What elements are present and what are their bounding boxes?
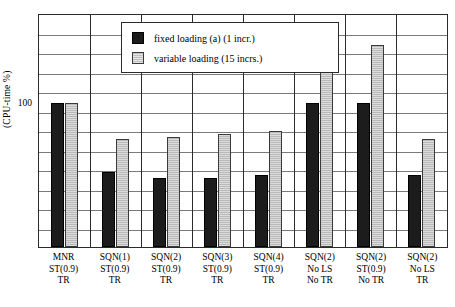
- x-axis-label: SQN(3)ST(0.9)TR: [192, 252, 243, 287]
- x-axis-label-line: SQN(2): [397, 252, 448, 264]
- bar-variable-loading: [422, 139, 435, 247]
- legend-entry-variable-loading: variable loading (15 incrs.): [132, 48, 338, 68]
- x-axis-label-line: ST(0.9): [243, 264, 294, 276]
- x-axis-label-line: No TR: [346, 275, 397, 287]
- y-axis-title: (CPU-time %): [2, 8, 12, 128]
- x-axis-label: SQN(2)ST(0.9)No TR: [346, 252, 397, 287]
- bar-group: [345, 15, 396, 247]
- bar-fixed-loading: [204, 178, 217, 247]
- x-axis-label-line: TR: [141, 275, 192, 287]
- x-axis-label-line: TR: [243, 275, 294, 287]
- x-axis-label-line: No LS: [397, 264, 448, 276]
- bar-variable-loading: [167, 137, 180, 247]
- legend-swatch-icon-variable: [132, 52, 144, 64]
- x-axis-label-line: No TR: [294, 275, 345, 287]
- x-axis-label-line: ST(0.9): [192, 264, 243, 276]
- x-axis-label: SQN(2)No LSNo TR: [294, 252, 345, 287]
- x-axis-label-line: SQN(2): [141, 252, 192, 264]
- bar-fixed-loading: [357, 103, 370, 247]
- bar-variable-loading: [65, 103, 78, 247]
- x-axis-label-line: MNR: [38, 252, 89, 264]
- bar-fixed-loading: [102, 172, 115, 247]
- x-axis-label: SQN(2)ST(0.9)TR: [141, 252, 192, 287]
- x-axis-label-line: SQN(2): [346, 252, 397, 264]
- bar-variable-loading: [269, 131, 282, 247]
- legend-entry-fixed-loading: fixed loading (a) (1 incr.): [132, 28, 338, 48]
- x-axis-label-line: No LS: [294, 264, 345, 276]
- x-axis-label-line: ST(0.9): [141, 264, 192, 276]
- bar-fixed-loading: [153, 178, 166, 247]
- x-axis-label-line: ST(0.9): [89, 264, 140, 276]
- x-axis-label-line: ST(0.9): [346, 264, 397, 276]
- x-axis-label: SQN(2)No LSTR: [397, 252, 448, 287]
- bar-fixed-loading: [306, 103, 319, 247]
- legend: fixed loading (a) (1 incr.) variable loa…: [121, 22, 339, 73]
- bar-fixed-loading: [51, 103, 64, 247]
- legend-label-fixed: fixed loading (a) (1 incr.): [154, 33, 255, 44]
- bar-fixed-loading: [408, 175, 421, 247]
- x-axis-label: SQN(4)ST(0.9)TR: [243, 252, 294, 287]
- bar-variable-loading: [320, 45, 333, 247]
- x-axis-label-line: SQN(4): [243, 252, 294, 264]
- bar-variable-loading: [218, 134, 231, 247]
- y-axis-tick-100: 100: [2, 98, 32, 108]
- bar-group: [39, 15, 90, 247]
- bar-group: [396, 15, 447, 247]
- x-axis-label-line: TR: [192, 275, 243, 287]
- x-axis-label-line: SQN(1): [89, 252, 140, 264]
- legend-swatch-icon-fixed: [132, 32, 144, 44]
- bar-variable-loading: [371, 45, 384, 247]
- bar-variable-loading: [116, 139, 129, 247]
- x-axis-labels: MNRST(0.9)TRSQN(1)ST(0.9)TRSQN(2)ST(0.9)…: [38, 252, 448, 287]
- x-axis-label: MNRST(0.9)TR: [38, 252, 89, 287]
- x-axis-label-line: SQN(2): [294, 252, 345, 264]
- x-axis-label-line: SQN(3): [192, 252, 243, 264]
- bar-chart: (CPU-time %) 100 fixed loading (a) (1 in…: [0, 0, 455, 307]
- x-axis-label-line: TR: [38, 275, 89, 287]
- x-axis-label-line: TR: [397, 275, 448, 287]
- bar-fixed-loading: [255, 175, 268, 247]
- x-axis-label-line: TR: [89, 275, 140, 287]
- x-axis-label: SQN(1)ST(0.9)TR: [89, 252, 140, 287]
- legend-label-variable: variable loading (15 incrs.): [154, 53, 262, 64]
- x-axis-label-line: ST(0.9): [38, 264, 89, 276]
